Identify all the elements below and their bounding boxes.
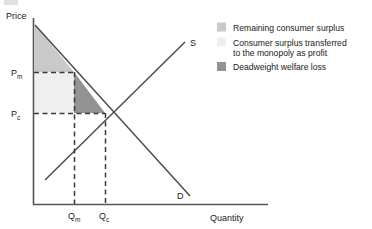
y-tick-price-competitive: Pc (11, 109, 21, 121)
legend: Remaining consumer surplus Consumer surp… (217, 23, 347, 73)
legend-swatch-transferred-surplus (217, 38, 226, 47)
legend-swatch-remaining-consumer-surplus (217, 23, 226, 32)
legend-label-transferred-surplus-line2: to the monopoly as profit (233, 48, 328, 58)
x-tick-quantity-competitive: Qc (99, 211, 110, 223)
y-axis-label: Price (6, 11, 27, 21)
demand-curve-label: D (177, 191, 184, 201)
legend-label-transferred-surplus-line1: Consumer surplus transferred (233, 38, 347, 48)
region-deadweight-loss (74, 72, 105, 113)
supply-curve-label: S (190, 38, 196, 48)
legend-label-remaining-consumer-surplus: Remaining consumer surplus (233, 23, 344, 33)
x-tick-quantity-monopoly: Qm (68, 211, 80, 223)
legend-item-deadweight-loss: Deadweight welfare loss (217, 62, 326, 72)
x-axis-label: Quantity (210, 213, 244, 223)
monopoly-welfare-loss-diagram: Price Quantity Pm Pc Qm Qc S D Remaining… (0, 0, 372, 229)
legend-swatch-deadweight-loss (217, 62, 226, 71)
y-tick-price-monopoly: Pm (11, 68, 22, 80)
region-transferred-surplus (35, 72, 74, 113)
legend-label-deadweight-loss: Deadweight welfare loss (233, 62, 326, 72)
legend-item-transferred-surplus: Consumer surplus transferred to the mono… (217, 38, 347, 59)
legend-item-remaining-consumer-surplus: Remaining consumer surplus (217, 23, 344, 33)
